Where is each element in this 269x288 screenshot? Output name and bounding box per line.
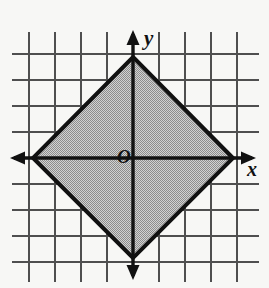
y-axis-label: y	[144, 28, 153, 49]
x-axis-label: x	[247, 159, 257, 179]
coordinate-plane-figure: y x O	[0, 0, 269, 288]
origin-label: O	[117, 147, 131, 166]
graph-canvas	[0, 0, 269, 288]
